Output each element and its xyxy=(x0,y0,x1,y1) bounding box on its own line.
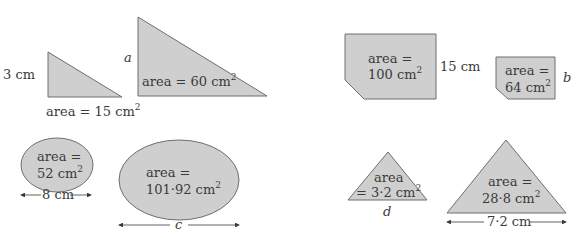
side-label-15cm: 15 cm xyxy=(440,59,480,74)
side-label-3cm: 3 cm xyxy=(3,67,35,82)
area-line2: 52 cm2 xyxy=(37,164,83,181)
area-line1: area = xyxy=(488,174,532,189)
large-ellipse: area = 101·92 cm2 c xyxy=(119,140,239,232)
area-line1: area = xyxy=(37,149,81,164)
area-label-60: area = 60 cm2 xyxy=(142,72,237,89)
area-line2: 101·92 cm2 xyxy=(146,180,221,197)
area-line2: = 3·2 cm2 xyxy=(356,183,421,200)
area-line2: 64 cm2 xyxy=(505,78,551,95)
area-line1: area xyxy=(374,170,404,185)
large-cut-rectangle: area = 100 cm2 15 cm xyxy=(345,34,480,99)
similar-shapes-diagram: 3 cm area = 15 cm2 a area = 60 cm2 area … xyxy=(0,0,579,238)
width-label-c: c xyxy=(175,217,183,232)
large-isosceles-triangle: area = 28·8 cm2 7·2 cm xyxy=(447,140,566,229)
small-isosceles-triangle: area = 3·2 cm2 d xyxy=(348,152,427,219)
base-label-d: d xyxy=(383,204,391,219)
small-cut-rectangle: area = 64 cm2 b xyxy=(496,57,571,99)
area-label-15: area = 15 cm2 xyxy=(46,102,141,119)
base-label-7-2cm: 7·2 cm xyxy=(487,214,531,229)
small-ellipse: area = 52 cm2 8 cm xyxy=(21,138,93,202)
side-label-a: a xyxy=(124,50,132,65)
large-right-triangle: a area = 60 cm2 xyxy=(124,17,267,96)
side-label-b: b xyxy=(563,70,571,85)
area-line2: 28·8 cm2 xyxy=(482,189,540,206)
area-line1: area = xyxy=(505,63,549,78)
area-line2: 100 cm2 xyxy=(368,65,422,82)
small-right-triangle: 3 cm area = 15 cm2 xyxy=(3,52,141,119)
width-label-8cm: 8 cm xyxy=(42,187,74,202)
area-line1: area = xyxy=(368,51,412,66)
area-line1: area = xyxy=(146,165,190,180)
